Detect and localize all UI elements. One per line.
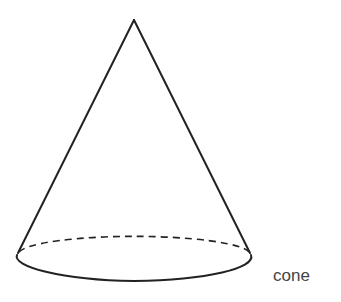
cone-base-hidden-arc (19, 236, 249, 252)
cone-base-visible-arc (17, 255, 252, 281)
cone-diagram: cone (0, 0, 341, 302)
cone-drawing (0, 0, 341, 302)
cone-left-edge (18, 20, 134, 253)
cone-right-edge (134, 20, 250, 253)
cone-label: cone (273, 266, 310, 286)
